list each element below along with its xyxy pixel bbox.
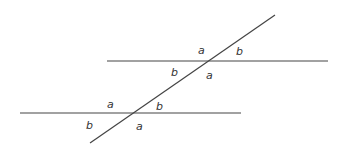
angle-label-upper-top-right: b [236, 45, 243, 58]
angle-label-lower-top-right: b [156, 100, 163, 113]
parallel-lines-diagram: a b b a a b b a [0, 0, 344, 147]
transversal-line [90, 15, 275, 143]
angle-label-upper-bottom-left: b [171, 66, 178, 79]
angle-label-upper-bottom-right: a [206, 69, 213, 82]
angle-label-upper-top-left: a [198, 44, 205, 57]
angle-label-lower-bottom-right: a [136, 120, 143, 133]
angle-label-lower-bottom-left: b [86, 119, 93, 132]
angle-label-lower-top-left: a [107, 98, 114, 111]
